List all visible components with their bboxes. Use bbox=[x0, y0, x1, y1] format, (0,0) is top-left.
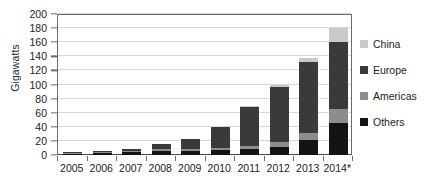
bar-segment-others bbox=[240, 149, 259, 155]
bar-segment-china bbox=[329, 28, 348, 41]
y-tick-label-40: 40 bbox=[35, 121, 47, 133]
legend-item-europe: Europe bbox=[360, 64, 434, 76]
bar-segment-others bbox=[329, 123, 348, 155]
x-tick-mark-2 bbox=[116, 156, 117, 161]
bar-segment-europe bbox=[240, 107, 259, 146]
gridline-200 bbox=[58, 13, 351, 14]
y-tick-label-140: 140 bbox=[29, 50, 47, 62]
bar-2006 bbox=[93, 151, 112, 155]
x-tick-mark-7 bbox=[264, 156, 265, 161]
y-tick-label-180: 180 bbox=[29, 22, 47, 34]
bar-segment-others bbox=[211, 150, 230, 155]
x-tick-mark-0 bbox=[57, 156, 58, 161]
x-tick-mark-1 bbox=[87, 156, 88, 161]
bar-2005 bbox=[63, 152, 82, 155]
bar-2013 bbox=[299, 58, 318, 155]
y-tick-label-200: 200 bbox=[29, 8, 47, 20]
x-tick-mark-6 bbox=[234, 156, 235, 161]
bar-series-container bbox=[58, 15, 351, 155]
x-tick-mark-10 bbox=[352, 156, 353, 161]
x-tick-label-2012: 2012 bbox=[267, 162, 290, 174]
legend-label: Americas bbox=[373, 90, 417, 102]
legend-swatch-icon bbox=[360, 118, 368, 126]
legend: ChinaEuropeAmericasOthers bbox=[360, 38, 434, 128]
bar-2012 bbox=[270, 85, 289, 155]
legend-item-americas: Americas bbox=[360, 90, 434, 102]
bar-segment-others bbox=[181, 151, 200, 155]
legend-swatch-icon bbox=[360, 92, 368, 100]
x-tick-label-2007: 2007 bbox=[119, 162, 142, 174]
bar-segment-others bbox=[152, 151, 171, 155]
bar-segment-americas bbox=[329, 109, 348, 122]
bar-segment-others bbox=[299, 140, 318, 156]
y-tick-label-60: 60 bbox=[35, 107, 47, 119]
bar-segment-europe bbox=[270, 87, 289, 142]
x-tick-label-2005: 2005 bbox=[60, 162, 83, 174]
bar-segment-europe bbox=[329, 42, 348, 110]
bar-chart: Gigawatts 020406080100120140160180200 20… bbox=[0, 0, 435, 196]
x-tick-mark-8 bbox=[293, 156, 294, 161]
bar-2009 bbox=[181, 139, 200, 155]
legend-swatch-icon bbox=[360, 40, 368, 48]
bar-2010 bbox=[211, 127, 230, 155]
bar-2008 bbox=[152, 144, 171, 155]
x-tick-mark-3 bbox=[146, 156, 147, 161]
legend-label: Others bbox=[373, 116, 405, 128]
legend-label: Europe bbox=[373, 64, 407, 76]
bar-segment-europe bbox=[299, 62, 318, 133]
x-tick-mark-9 bbox=[323, 156, 324, 161]
bar-segment-europe bbox=[211, 127, 230, 148]
bar-segment-others bbox=[122, 152, 141, 155]
x-tick-label-2013: 2013 bbox=[296, 162, 319, 174]
x-tick-label-2006: 2006 bbox=[90, 162, 113, 174]
x-axis-ticks: 2005200620072008200920102011201220132014… bbox=[0, 156, 435, 180]
bar-2014est bbox=[329, 28, 348, 155]
y-tick-label-120: 120 bbox=[29, 64, 47, 76]
x-tick-mark-4 bbox=[175, 156, 176, 161]
bar-segment-others bbox=[270, 147, 289, 155]
bar-segment-others bbox=[93, 153, 112, 155]
x-tick-mark-5 bbox=[205, 156, 206, 161]
x-tick-label-2011: 2011 bbox=[237, 162, 260, 174]
plot-area bbox=[57, 14, 352, 155]
y-tick-label-100: 100 bbox=[29, 79, 47, 91]
bar-2011 bbox=[240, 106, 259, 155]
legend-item-others: Others bbox=[360, 116, 434, 128]
y-tick-label-160: 160 bbox=[29, 36, 47, 48]
legend-item-china: China bbox=[360, 38, 434, 50]
y-tick-label-20: 20 bbox=[35, 135, 47, 147]
bar-segment-europe bbox=[181, 139, 200, 149]
bar-segment-others bbox=[63, 154, 82, 155]
legend-swatch-icon bbox=[360, 66, 368, 74]
legend-label: China bbox=[373, 38, 400, 50]
y-tick-label-80: 80 bbox=[35, 93, 47, 105]
x-tick-label-2008: 2008 bbox=[149, 162, 172, 174]
x-tick-label-2010: 2010 bbox=[208, 162, 231, 174]
x-tick-label-2009: 2009 bbox=[178, 162, 201, 174]
bar-2007 bbox=[122, 149, 141, 155]
x-tick-label-2014est: 2014* bbox=[324, 162, 351, 174]
